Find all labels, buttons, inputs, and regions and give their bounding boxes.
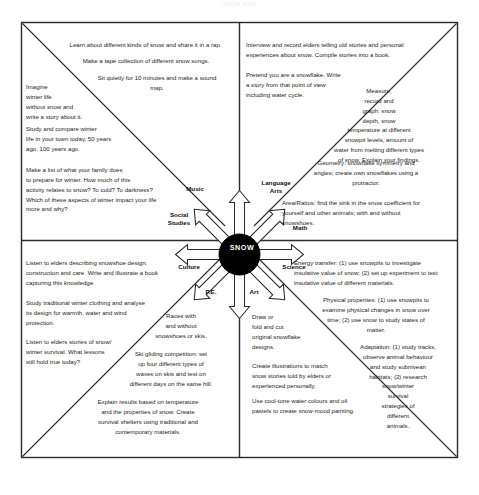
activity-culture-1: Listen to elders describing snowshoe des…: [26, 258, 206, 288]
activity-art-1: Draw or fold and cut original snowflake …: [252, 312, 340, 351]
activity-music-1: Learn about different kinds of snow and …: [58, 40, 233, 50]
activity-math-2: Geometry: snowflake symmetry and angles;…: [292, 158, 440, 188]
activity-social-studies-3: Make a list of what your family does to …: [26, 165, 211, 214]
activity-pe-2: Ski gliding competition: set up four dif…: [110, 349, 232, 388]
activity-art-3: Use cool-tone water colours and oil past…: [252, 396, 392, 416]
activity-language-arts-1: Interview and record elders telling old …: [246, 40, 436, 60]
activity-pe-1: Races with and without snowshoes or skis…: [131, 311, 231, 341]
activity-social-studies-2: Study and compare winter life in your to…: [26, 124, 156, 154]
snow-curriculum-web-page: SNOW WEB: [0, 0, 479, 495]
activity-math-1: Measure, record and graph: snow depth, s…: [300, 86, 458, 165]
activity-math-3: Area/Ratios: find the sink in the snow c…: [282, 198, 457, 228]
spoke-label-pe[interactable]: P.E.: [196, 288, 226, 296]
activity-pe-3: Explain results based on temperature and…: [64, 397, 232, 436]
activity-art-2: Create illustrations to match snow stori…: [252, 361, 377, 391]
activity-science-1: Energy transfer: (1) use snowpits to inv…: [294, 258, 459, 288]
spoke-label-art[interactable]: Art: [240, 288, 268, 296]
hub-label-snow: SNOW: [222, 243, 262, 252]
activity-social-studies-1: Imagine winter life without snow and wri…: [26, 82, 146, 121]
activity-music-2: Make a tape collection of different snow…: [66, 56, 226, 66]
